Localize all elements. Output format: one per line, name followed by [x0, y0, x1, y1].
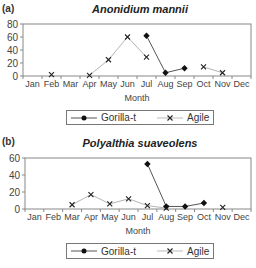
series-line-gorilla-t	[147, 164, 204, 207]
data-point-agile	[88, 192, 93, 197]
plot-area-b: 0204060JanFebMarAprMayJunJulAugSepOctNov…	[0, 0, 256, 268]
legend-label-agile: Agile	[187, 246, 209, 257]
x-tick-label: Apr	[84, 212, 98, 222]
legend-item-agile: Agile	[157, 244, 209, 258]
x-axis-title: Month	[125, 226, 150, 236]
series-line-agile	[72, 195, 166, 209]
x-tick-label: Feb	[45, 212, 61, 222]
x-tick-label: Dec	[234, 212, 251, 222]
legend-label-gorilla: Gorilla-t	[101, 246, 136, 257]
x-tick-label: Mar	[64, 212, 80, 222]
data-point-gorilla	[201, 200, 207, 206]
y-tick-label: 40	[9, 170, 21, 181]
x-marker-icon	[157, 246, 183, 256]
x-tick-label: Oct	[197, 212, 212, 222]
x-tick-label: Jul	[142, 212, 154, 222]
y-tick-label: 20	[9, 187, 21, 198]
x-tick-label: Jun	[121, 212, 136, 222]
x-tick-label: Jan	[27, 212, 42, 222]
chart-panel-b: (b) Polyalthia suaveolens 0204060JanFebM…	[0, 0, 256, 268]
x-tick-label: Nov	[215, 212, 232, 222]
legend-item-gorilla: Gorilla-t	[71, 244, 136, 258]
diamond-marker-icon	[71, 246, 97, 256]
data-point-gorilla	[144, 161, 150, 167]
data-point-agile	[70, 202, 75, 207]
y-tick-label: 60	[9, 153, 21, 164]
x-tick-label: Aug	[158, 212, 174, 222]
plot-frame	[25, 158, 251, 209]
x-tick-label: May	[101, 212, 119, 222]
y-tick-label: 0	[14, 204, 20, 215]
x-tick-label: Sep	[177, 212, 193, 222]
legend-b: Gorilla-t Agile	[66, 243, 214, 259]
